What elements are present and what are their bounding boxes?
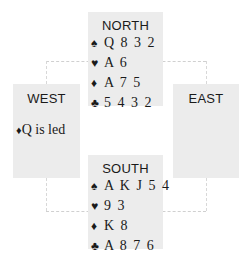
north-clubs: ♣5 4 3 2	[88, 93, 163, 113]
west-hand: WEST ♦Q is led	[13, 84, 80, 178]
north-hand: NORTH ♠Q 8 3 2 ♥A 6 ♦A 7 5 ♣5 4 3 2	[88, 12, 163, 106]
north-diamonds-cards: A 7 5	[104, 75, 142, 90]
connector-bottom-right	[206, 178, 207, 211]
west-lead-text: Q is led	[22, 122, 66, 137]
connector-top-left	[46, 61, 47, 84]
connector-bottom-left	[46, 178, 47, 211]
east-hand: EAST	[173, 84, 239, 178]
south-spades: ♠A K J 5 4	[88, 176, 163, 196]
north-spades: ♠Q 8 3 2	[88, 33, 163, 53]
club-icon: ♣	[91, 237, 104, 256]
west-lead-note: ♦Q is led	[13, 122, 80, 138]
spade-icon: ♠	[91, 34, 104, 53]
south-diamonds: ♦K 8	[88, 216, 163, 236]
heart-icon: ♥	[91, 54, 104, 73]
north-clubs-cards: 5 4 3 2	[104, 95, 153, 110]
south-spades-cards: A K J 5 4	[104, 178, 170, 193]
heart-icon: ♥	[91, 197, 104, 216]
north-diamonds: ♦A 7 5	[88, 73, 163, 93]
east-title: EAST	[173, 91, 239, 106]
south-clubs: ♣A 8 7 6	[88, 236, 163, 256]
south-clubs-cards: A 8 7 6	[104, 238, 155, 253]
north-spades-cards: Q 8 3 2	[104, 35, 156, 50]
diamond-icon: ♦	[91, 217, 104, 236]
south-hearts: ♥9 3	[88, 196, 163, 216]
north-hearts-cards: A 6	[104, 55, 128, 70]
connector-top-right	[206, 61, 207, 84]
north-title: NORTH	[88, 18, 163, 33]
spade-icon: ♠	[91, 177, 104, 196]
south-hand: SOUTH ♠A K J 5 4 ♥9 3 ♦K 8 ♣A 8 7 6	[88, 155, 163, 249]
club-icon: ♣	[91, 94, 104, 113]
south-hearts-cards: 9 3	[104, 198, 126, 213]
south-diamonds-cards: K 8	[104, 218, 129, 233]
west-title: WEST	[13, 91, 80, 106]
north-hearts: ♥A 6	[88, 53, 163, 73]
diamond-icon: ♦	[91, 74, 104, 93]
south-title: SOUTH	[88, 161, 163, 176]
